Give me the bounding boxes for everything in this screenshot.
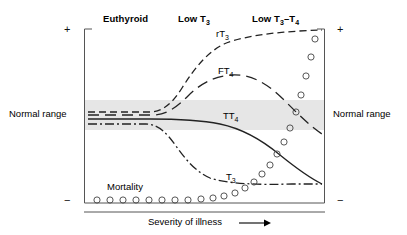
curve-t3 xyxy=(88,124,322,184)
mortality-label: Mortality xyxy=(107,181,143,192)
stage-label-euthyroid: Euthyroid xyxy=(103,13,148,24)
normal-range-label-left: Normal range xyxy=(9,108,67,119)
curve-label-ft4: FT4 xyxy=(218,65,234,78)
curve-label-t3: T3 xyxy=(226,171,236,184)
curve-label-rt3: rT3 xyxy=(216,28,229,41)
curve-label-tt4: TT4 xyxy=(223,110,239,123)
axis-minus-left: − xyxy=(64,195,70,206)
stage-label-low-t3: Low T3 xyxy=(178,13,210,26)
severity-arrow-icon xyxy=(239,220,271,227)
axis-plus-left: + xyxy=(64,24,70,35)
axis-minus-right: − xyxy=(337,195,343,206)
axis-plus-right: + xyxy=(337,24,343,35)
normal-range-label-right: Normal range xyxy=(333,108,391,119)
curve-rt3 xyxy=(88,30,322,112)
x-axis-title: Severity of illness xyxy=(148,216,222,227)
stage-label-low-t3-t4: Low T3–T4 xyxy=(252,13,299,26)
